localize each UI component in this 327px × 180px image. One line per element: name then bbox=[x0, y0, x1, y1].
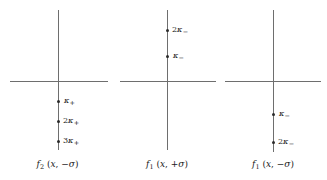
panel-caption: f1 (x, +σ) bbox=[112, 160, 222, 169]
data-point-label: κ− bbox=[279, 110, 290, 118]
panel-3: κ− 2κ− f1 (x, −σ) bbox=[219, 0, 327, 180]
panel-1: κ+ 2κ+ 3κ+ f2 (x, −σ) bbox=[0, 0, 115, 180]
horizontal-axis bbox=[225, 81, 321, 82]
data-point bbox=[272, 141, 275, 144]
panel-caption: f2 (x, −σ) bbox=[0, 160, 115, 169]
data-point bbox=[166, 55, 169, 58]
vertical-axis bbox=[58, 10, 59, 150]
data-point bbox=[57, 120, 60, 123]
data-point-label: 2κ+ bbox=[63, 117, 79, 125]
horizontal-axis bbox=[10, 81, 108, 82]
figure-root: κ+ 2κ+ 3κ+ f2 (x, −σ) 2κ− κ− f1 (x, +σ) bbox=[0, 0, 327, 180]
panel-2: 2κ− κ− f1 (x, +σ) bbox=[112, 0, 222, 180]
data-point-label: 2κ− bbox=[172, 26, 188, 34]
horizontal-axis bbox=[120, 81, 216, 82]
data-point-label: κ− bbox=[173, 52, 184, 60]
panel-caption: f1 (x, −σ) bbox=[219, 160, 327, 169]
data-point bbox=[57, 100, 60, 103]
data-point-label: κ+ bbox=[64, 97, 75, 105]
data-point bbox=[57, 140, 60, 143]
data-point-label: 2κ− bbox=[278, 138, 294, 146]
data-point bbox=[166, 29, 169, 32]
data-point bbox=[272, 113, 275, 116]
data-point-label: 3κ+ bbox=[63, 137, 79, 145]
